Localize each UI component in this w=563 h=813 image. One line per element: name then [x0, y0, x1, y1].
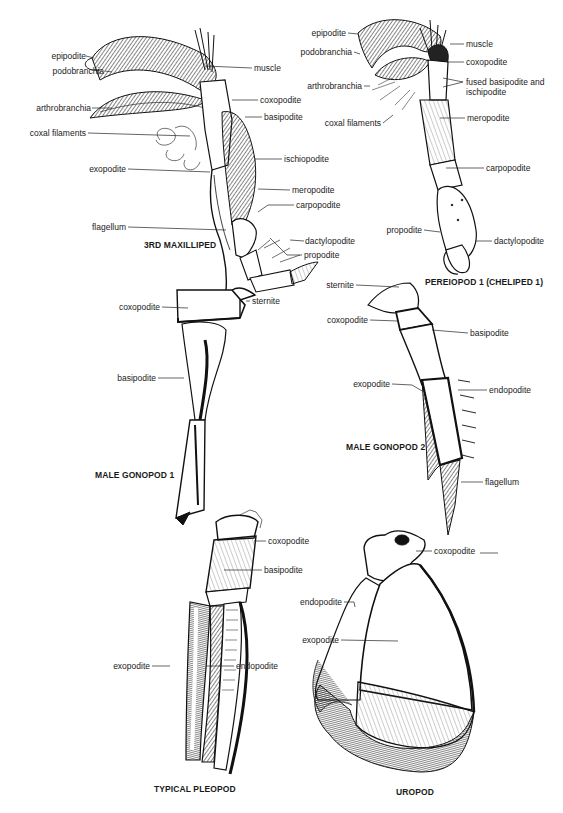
label-maxilliped-coxal-filaments: coxal filaments [10, 128, 86, 138]
label-pereiopod-propodite: propodite [368, 225, 422, 235]
pleopod-drawing [186, 510, 262, 774]
title-male-gonopod-2: MALE GONOPOD 2 [346, 442, 425, 452]
gonopod1-drawing [176, 288, 255, 525]
label-maxilliped-exopodite: exopodite [60, 164, 126, 174]
uropod-drawing [313, 531, 474, 772]
label-gonopod2-sternite: sternite [310, 280, 354, 290]
label-uropod-exopodite: exopodite [276, 635, 339, 645]
label-gonopod2-basipodite: basipodite [470, 328, 509, 338]
label-gonopod1-basipodite: basipodite [100, 373, 156, 383]
label-maxilliped-meropodite: meropodite [292, 185, 335, 195]
label-maxilliped-basipodite: basipodite [264, 112, 303, 122]
label-pleopod-endopodite: endopodite [236, 661, 278, 671]
label-pereiopod-muscle: muscle [466, 39, 493, 49]
label-pereiopod-coxopodite: coxopodite [466, 57, 507, 67]
title-male-gonopod-1: MALE GONOPOD 1 [95, 470, 174, 480]
label-pleopod-coxopodite: coxopodite [268, 536, 309, 546]
label-pereiopod-coxal-filaments: coxal filaments [300, 118, 381, 128]
label-gonopod2-endopodite: endopodite [489, 385, 531, 395]
label-pereiopod-dactylopodite: dactylopodite [494, 236, 544, 246]
label-maxilliped-arthrobranchia: arthrobranchia [14, 103, 91, 113]
pereiopod-drawing [358, 20, 476, 274]
label-gonopod2-exopodite: exopodite [330, 379, 390, 389]
label-gonopod2-coxopodite: coxopodite [306, 315, 368, 325]
label-pleopod-exopodite: exopodite [90, 661, 150, 671]
label-maxilliped-muscle: muscle [254, 63, 281, 73]
label-uropod-endopodite: endopodite [276, 597, 342, 607]
label-maxilliped-carpopodite: carpopodite [296, 200, 340, 210]
label-maxilliped-flagellum: flagellum [60, 222, 126, 232]
label-gonopod1-sternite: sternite [252, 296, 280, 306]
label-pereiopod-fused-basipodite: fused basipodite and [466, 77, 544, 87]
appendage-diagram-plate: epipodite podobranchia muscle coxopodite… [0, 0, 563, 813]
label-maxilliped-dactylopodite: dactylopodite [305, 236, 355, 246]
title-typical-pleopod: TYPICAL PLEOPOD [154, 784, 236, 794]
label-pereiopod-meropodite: meropodite [467, 113, 510, 123]
label-maxilliped-podobranchia: podobranchia [18, 66, 104, 76]
label-maxilliped-propodite: propodite [304, 250, 339, 260]
label-pleopod-basipodite: basipodite [264, 565, 303, 575]
label-maxilliped-epipodite: epipodite [28, 51, 86, 61]
label-maxilliped-ischiopodite: ischiopodite [284, 154, 329, 164]
title-pereiopod-1: PEREIOPOD 1 (CHELIPED 1) [425, 277, 543, 287]
title-uropod: UROPOD [396, 787, 434, 797]
label-pereiopod-epipodite: epipodite [290, 28, 346, 38]
label-gonopod2-flagellum: flagellum [485, 477, 519, 487]
label-pereiopod-podobranchia: podobranchia [280, 47, 352, 57]
label-pereiopod-carpopodite: carpopodite [486, 163, 530, 173]
label-maxilliped-coxopodite: coxopodite [260, 95, 301, 105]
label-gonopod1-coxopodite: coxopodite [100, 302, 160, 312]
label-pereiopod-ischipodite: ischipodite [466, 87, 506, 97]
label-uropod-coxopodite: coxopodite [434, 546, 475, 556]
title-3rd-maxilliped: 3RD MAXILLIPED [144, 240, 216, 250]
label-pereiopod-arthrobranchia: arthrobranchia [290, 81, 362, 91]
